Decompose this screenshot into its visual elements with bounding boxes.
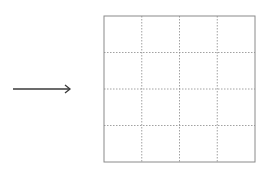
grid-4x4 (104, 16, 255, 162)
diagram-canvas (0, 0, 272, 169)
right-arrow-icon (13, 85, 70, 93)
